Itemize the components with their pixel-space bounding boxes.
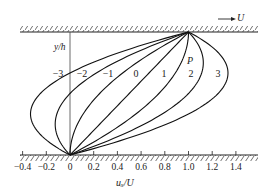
x-tick-label: −0.2	[38, 163, 55, 173]
curve-label: 3	[216, 69, 221, 79]
profile-curve-p2	[70, 32, 203, 155]
top-wall-velocity-label: U	[237, 13, 244, 23]
curve-label: −2	[77, 69, 88, 79]
profile-curve-p-2	[55, 32, 188, 155]
curve-label: −3	[53, 69, 64, 79]
profile-curve-p0	[70, 32, 189, 155]
x-tick-label: 1.0	[183, 163, 195, 173]
x-tick-label: 1.2	[206, 163, 218, 173]
x-tick-label: −0.4	[14, 163, 31, 173]
x-tick-label: 0	[68, 163, 73, 173]
x-tick-label: 0.6	[135, 163, 147, 173]
x-axis-label: uₓ/U	[116, 178, 134, 188]
bottom-wall-hatching	[20, 155, 258, 161]
x-tick-label: 1.4	[230, 163, 242, 173]
x-tick-label: 0.2	[88, 163, 100, 173]
curve-label: 1	[162, 69, 167, 79]
x-tick-label: 0.4	[111, 163, 123, 173]
curve-label: −1	[103, 69, 114, 79]
y-axis-label: y/h	[54, 43, 66, 53]
top-wall-hatching	[20, 26, 258, 32]
curve-label: 2	[189, 69, 194, 79]
parameter-label: P	[187, 56, 193, 66]
x-tick-label: 0.8	[159, 163, 171, 173]
profile-curve-p3	[70, 32, 228, 155]
arrow-head-icon	[231, 17, 236, 21]
curve-label: 0	[134, 69, 139, 79]
